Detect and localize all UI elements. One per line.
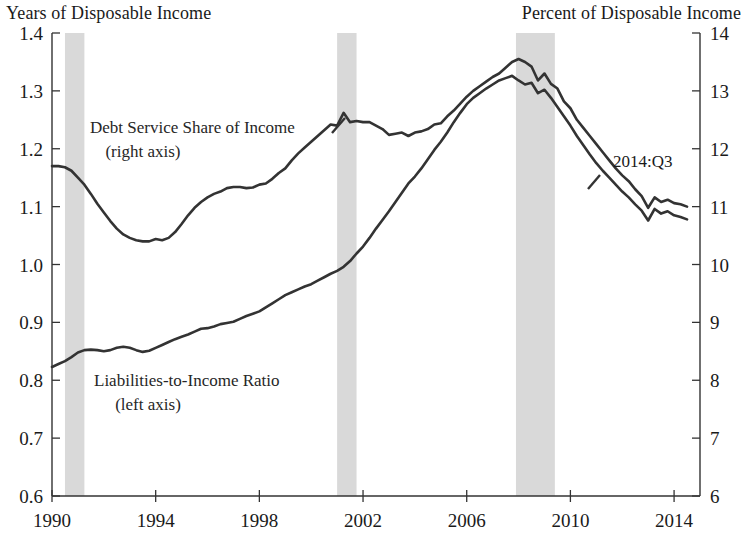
chart-plot: 1.41.31.21.11.00.90.80.70.6 141312111098… [0,0,745,537]
recession-band-3 [516,33,555,496]
bottom-tick-label: 1994 [137,510,176,531]
right-tick-label: 8 [710,370,720,391]
bottom-tick-label: 2006 [448,510,486,531]
recession-band-1 [65,33,84,496]
right-tick-label: 6 [710,486,720,507]
debt-service-label-line1: Debt Service Share of Income [90,118,295,137]
series-lines-group [52,59,687,367]
bottom-tick-label: 2010 [551,510,589,531]
bottom-tick-label: 1990 [33,510,71,531]
left-tick-label: 1.2 [19,139,43,160]
bottom-tick-label: 1998 [240,510,278,531]
right-tick-label: 9 [710,312,720,333]
right-tick-label: 11 [710,197,728,218]
left-tick-label: 0.7 [19,428,43,449]
right-tick-label: 7 [710,428,720,449]
debt-service-label-line2: (right axis) [105,142,180,161]
bottom-tick-label: 2014 [655,510,694,531]
left-tick-label: 1.3 [19,81,43,102]
left-tick-label: 0.8 [19,370,43,391]
annotations-group: Debt Service Share of Income (right axis… [90,118,673,414]
last-observation-label: 2014:Q3 [613,152,673,171]
liabilities-label-line2: (left axis) [115,395,181,414]
right-tick-label: 14 [710,23,730,44]
right-tick-label: 10 [710,255,729,276]
left-axis-ticks: 1.41.31.21.11.00.90.80.70.6 [19,23,60,507]
last-observation-leader-line [588,175,600,189]
left-tick-label: 1.0 [19,255,43,276]
recession-bands-group [65,33,555,496]
chart-page: Years of Disposable Income Percent of Di… [0,0,745,537]
left-tick-label: 0.6 [19,486,43,507]
right-axis-ticks: 14131211109876 [692,23,730,507]
bottom-tick-label: 2002 [344,510,382,531]
left-tick-label: 1.1 [19,197,43,218]
left-tick-label: 0.9 [19,312,43,333]
left-tick-label: 1.4 [19,23,43,44]
liabilities-label-line1: Liabilities-to-Income Ratio [94,371,280,390]
right-tick-label: 12 [710,139,729,160]
axis-frame [52,33,700,496]
right-tick-label: 13 [710,81,729,102]
